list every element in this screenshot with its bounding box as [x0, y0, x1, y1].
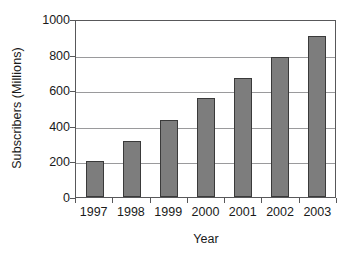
bar-2001 [234, 78, 252, 197]
y-axis-tick-label: 200 [10, 156, 70, 169]
y-axis-tick-label: 800 [10, 49, 70, 62]
bar-2003 [308, 36, 326, 197]
bars-layer [76, 21, 335, 197]
x-axis-tick-mark [112, 198, 113, 203]
x-axis-tick-mark [187, 198, 188, 203]
bar-chart-figure: Subscribers (Millions) 02004006008001000… [0, 0, 351, 263]
y-axis-tick-label: 1000 [10, 14, 70, 27]
bar-slot [113, 21, 150, 197]
x-axis-tick-label: 2000 [187, 205, 224, 219]
bar-1999 [160, 120, 178, 197]
x-axis-tick-mark [261, 198, 262, 203]
bar-1997 [86, 161, 104, 197]
bar-slot [76, 21, 113, 197]
x-axis-tick-label: 1999 [150, 205, 187, 219]
bar-1998 [123, 141, 141, 197]
x-axis-tick-mark [224, 198, 225, 203]
plot-area [75, 20, 336, 198]
y-axis-tick-label: 0 [10, 192, 70, 205]
x-axis-tick-mark [150, 198, 151, 203]
bar-slot [187, 21, 224, 197]
bar-slot [150, 21, 187, 197]
bar-slot [261, 21, 298, 197]
bar-slot [224, 21, 261, 197]
x-axis-tick-label: 2003 [299, 205, 336, 219]
x-axis-tick-labels: 1997199819992000200120022003 [75, 205, 336, 219]
x-axis-tick-mark [336, 198, 337, 203]
x-axis-tick-label: 1998 [112, 205, 149, 219]
bar-slot [298, 21, 335, 197]
x-axis-title: Year [75, 232, 337, 246]
y-axis-tick-label: 400 [10, 121, 70, 134]
y-axis-tick-label: 600 [10, 85, 70, 98]
y-axis-title: Subscribers (Millions) [10, 18, 24, 198]
x-axis-tick-label: 1997 [75, 205, 112, 219]
bar-2000 [197, 98, 215, 197]
x-axis-tick-label: 2002 [261, 205, 298, 219]
x-axis-tick-mark [299, 198, 300, 203]
x-axis-tick-mark [75, 198, 76, 203]
x-axis-tick-label: 2001 [224, 205, 261, 219]
bar-2002 [271, 57, 289, 197]
